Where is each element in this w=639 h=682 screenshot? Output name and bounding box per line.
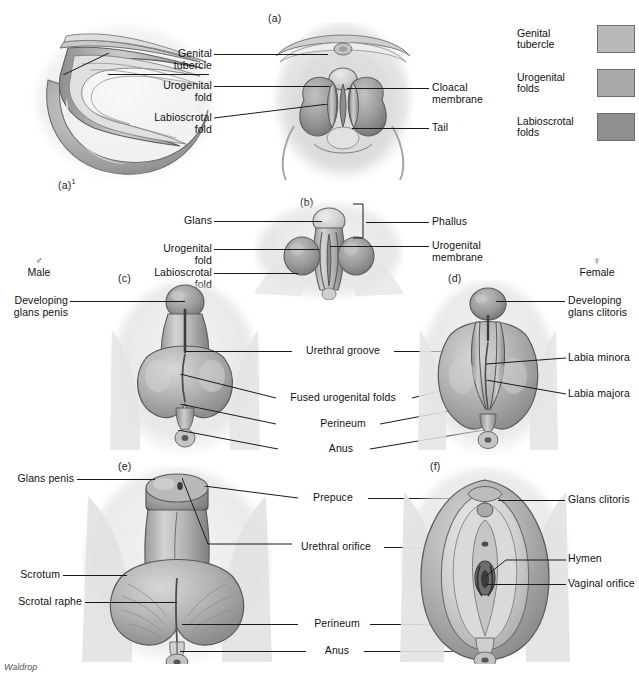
panel-letter-a-prime-text: (a) [58, 179, 71, 191]
leader-scrotal-raphe-e [85, 602, 177, 603]
label-perineum-ef: Perineum [304, 618, 370, 630]
label-urethral-groove: Urethral groove [296, 345, 390, 357]
leader-urogenital-fold-b [214, 249, 319, 250]
leader-urethral-orifice-left [182, 478, 292, 550]
label-urethral-orifice: Urethral orifice [292, 541, 380, 553]
label-genital-tubercle-a: Genital tubercle [150, 48, 212, 71]
leader-anus-cd-left [178, 430, 278, 452]
leader-phallus-b [366, 222, 429, 223]
leader-anus-ef-left [180, 651, 306, 652]
female-header: ♀ Female [565, 256, 629, 278]
leader-labioscrotal-fold-a [214, 104, 328, 120]
legend-item-labioscrotal-folds: Labioscrotal folds [517, 110, 635, 144]
leader-tail-a [352, 128, 429, 129]
leader-genital-tubercle-a-prime [108, 74, 209, 75]
leader-perineum-ef-left [182, 624, 298, 625]
leader-genital-tubercle-a-prime-hook [63, 53, 109, 75]
legend-item-urogenital-folds: Urogenital folds [517, 66, 635, 100]
leader-hymen-f [486, 552, 566, 578]
leader-labia-minora-d [486, 352, 566, 366]
label-vaginal-orifice-f: Vaginal orifice [568, 578, 639, 590]
label-tail-a: Tail [432, 122, 482, 134]
leader-glans-penis-e [77, 479, 155, 480]
leader-labioscrotal-fold-b [214, 273, 298, 274]
label-phallus-b: Phallus [432, 216, 492, 228]
leader-scrotum-e [63, 575, 127, 576]
label-labia-minora-d: Labia minora [568, 352, 639, 364]
leader-glans-b [214, 221, 322, 222]
label-glans-penis-e: Glans penis [0, 473, 74, 485]
label-urogenital-fold-a: Urogenital fold [148, 80, 212, 103]
leader-perineum-cd-left [180, 404, 276, 426]
legend-label: Labioscrotal folds [517, 116, 585, 139]
legend: Genital tubercle Urogenital folds Labios… [517, 22, 635, 154]
leader-urogenital-fold-a [214, 86, 330, 87]
label-glans-clitoris-f: Glans clitoris [568, 494, 639, 506]
label-urogenital-membrane-b: Urogenital membrane [432, 240, 506, 263]
panel-letter-a-prime: (a)1 [58, 178, 76, 191]
leader-developing-glans-clitoris-d [496, 301, 565, 302]
bracket-phallus [352, 203, 366, 243]
leader-developing-glans-penis-c [70, 301, 185, 302]
illustration-a-perineum [268, 22, 418, 182]
male-header: ♂ Male [10, 256, 68, 278]
label-scrotal-raphe-e: Scrotal raphe [0, 596, 82, 608]
label-anus-cd: Anus [316, 443, 366, 455]
label-hymen-f: Hymen [568, 553, 628, 565]
label-developing-glans-clitoris-d: Developing glans clitoris [568, 295, 639, 318]
leader-glans-clitoris-f [498, 500, 565, 501]
legend-swatch [597, 69, 635, 97]
male-label: Male [28, 266, 51, 278]
leader-urethral-groove-left [186, 351, 292, 352]
label-urogenital-fold-b: Urogenital fold [148, 243, 212, 266]
legend-label: Urogenital folds [517, 72, 585, 95]
label-scrotum-e: Scrotum [0, 569, 60, 581]
male-symbol-icon: ♂ [10, 256, 68, 266]
legend-swatch [597, 113, 635, 141]
panel-letter-a-prime-sup: 1 [71, 178, 75, 185]
label-anus-ef: Anus [312, 645, 362, 657]
figure-root: Genital tubercle Urogenital folds Labios… [0, 0, 639, 682]
label-developing-glans-penis-c: Developing glans penis [0, 295, 68, 318]
female-label: Female [579, 266, 614, 278]
label-perineum-cd: Perineum [310, 418, 376, 430]
leader-labia-majora-d [486, 380, 566, 402]
legend-item-genital-tubercle: Genital tubercle [517, 22, 635, 56]
label-labioscrotal-fold-a: Labioscrotal fold [142, 112, 212, 135]
label-prepuce: Prepuce [302, 492, 364, 504]
leader-fused-urogenital-folds-left [180, 374, 276, 400]
illustration-c-male-differentiating [110, 280, 260, 455]
label-cloacal-membrane-a: Cloacal membrane [432, 82, 504, 105]
leader-vaginal-orifice-f [486, 584, 566, 585]
illustration-d-female-differentiating [418, 280, 558, 455]
legend-swatch [597, 25, 635, 53]
label-fused-urogenital-folds: Fused urogenital folds [278, 392, 408, 404]
label-labia-majora-d: Labia majora [568, 388, 639, 400]
leader-cloacal-membrane-a [347, 88, 429, 89]
artist-credit: Waldrop [4, 662, 37, 672]
female-symbol-icon: ♀ [565, 256, 629, 266]
legend-label: Genital tubercle [517, 28, 585, 51]
illustration-b-indifferent [254, 200, 404, 300]
leader-genital-tubercle-a [214, 54, 328, 55]
label-glans-b: Glans [168, 215, 212, 227]
leader-urogenital-membrane-b [330, 246, 429, 247]
